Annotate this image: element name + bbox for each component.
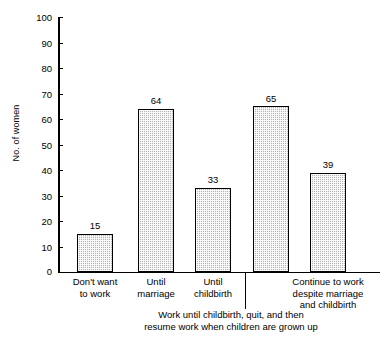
bar-chart: No. of women 100 90 80 70 60 50 40 30 20…	[0, 0, 387, 345]
y-tick-90	[58, 43, 63, 44]
x-category-label-continue-to-work: Continue to work despite marriage and ch…	[280, 276, 376, 311]
y-tick-label-10: 10	[18, 242, 52, 253]
y-tick-label-30: 30	[18, 191, 52, 202]
group-annotation-line: resume work when children are grown up	[86, 321, 376, 333]
y-tick-0	[58, 272, 63, 273]
bar-value-dont-want-to-work: 15	[65, 220, 125, 231]
group-annotation-line: Work until childbirth, quit, and then	[86, 309, 376, 321]
bar-continue-to-work[interactable]	[310, 173, 346, 273]
y-tick-60	[58, 119, 63, 120]
y-tick-label-90: 90	[18, 38, 52, 49]
y-tick-label-20: 20	[18, 216, 52, 227]
y-tick-80	[58, 68, 63, 69]
y-tick-label-40: 40	[18, 165, 52, 176]
y-tick-20	[58, 221, 63, 222]
x-category-label-until-childbirth: Until childbirth	[165, 276, 261, 299]
y-tick-100	[58, 17, 63, 18]
bar-resume-work-after-children-grown[interactable]	[253, 106, 289, 272]
y-tick-label-100: 100	[18, 12, 52, 23]
bar-until-childbirth[interactable]	[195, 188, 231, 272]
bar-value-until-childbirth: 33	[183, 174, 243, 185]
x-category-line: Continue to work	[280, 276, 376, 288]
y-tick-50	[58, 145, 63, 146]
y-tick-40	[58, 170, 63, 171]
y-tick-10	[58, 247, 63, 248]
category-group-divider	[245, 273, 246, 309]
bar-value-continue-to-work: 39	[298, 159, 358, 170]
y-tick-label-70: 70	[18, 89, 52, 100]
x-category-line: childbirth	[165, 288, 261, 300]
y-tick-label-50: 50	[18, 140, 52, 151]
y-tick-70	[58, 94, 63, 95]
bar-dont-want-to-work[interactable]	[77, 234, 113, 272]
group-annotation-note: Work until childbirth, quit, and then re…	[86, 309, 376, 332]
bar-value-resume-work-after-children-grown: 65	[241, 93, 301, 104]
y-tick-30	[58, 196, 63, 197]
x-category-line: despite marriage	[280, 288, 376, 300]
y-tick-label-80: 80	[18, 63, 52, 74]
x-category-line: Until	[165, 276, 261, 288]
bar-until-marriage[interactable]	[138, 109, 174, 272]
y-tick-label-60: 60	[18, 114, 52, 125]
bar-value-until-marriage: 64	[126, 95, 186, 106]
